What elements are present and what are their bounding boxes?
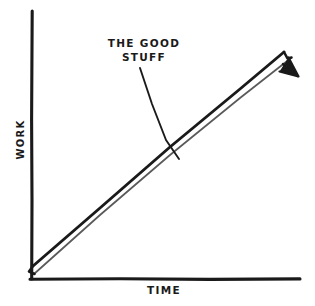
sketch-chart-canvas: THE GOOD STUFF WORK TIME xyxy=(0,0,315,306)
y-axis-line xyxy=(32,11,33,279)
annotation-line-2: STUFF xyxy=(106,50,182,64)
x-axis-line xyxy=(30,279,300,280)
growth-band-upper-stroke xyxy=(33,52,284,266)
y-axis-label: WORK xyxy=(15,114,26,166)
x-axis-label: TIME xyxy=(131,284,197,296)
annotation-the-good-stuff: THE GOOD STUFF xyxy=(106,36,182,64)
growth-arrow-head-icon xyxy=(280,58,299,77)
growth-band-lower-stroke xyxy=(34,58,291,274)
annotation-line-1: THE GOOD xyxy=(106,36,182,50)
